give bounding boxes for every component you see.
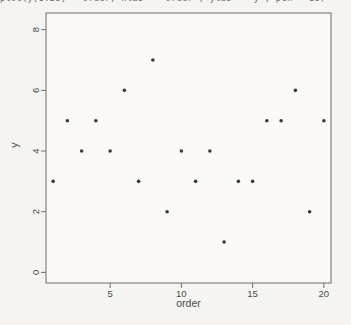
data-point bbox=[294, 89, 298, 93]
y-tick-label: 2 bbox=[30, 209, 41, 214]
data-point bbox=[165, 210, 169, 214]
data-point bbox=[208, 149, 212, 153]
data-point bbox=[322, 119, 326, 123]
data-point bbox=[251, 180, 255, 184]
data-point bbox=[108, 149, 112, 153]
data-point bbox=[222, 240, 226, 244]
scatter-plot: 510152002468 bbox=[0, 0, 351, 325]
data-point bbox=[123, 89, 127, 93]
data-point bbox=[94, 119, 98, 123]
y-tick-label: 8 bbox=[30, 27, 41, 32]
y-tick-label: 0 bbox=[30, 270, 41, 275]
data-point bbox=[237, 180, 241, 184]
data-point bbox=[194, 180, 198, 184]
data-point bbox=[308, 210, 312, 214]
data-point bbox=[151, 58, 155, 62]
chart-canvas: 510152002468 bbox=[0, 0, 351, 325]
data-point bbox=[137, 180, 141, 184]
data-point bbox=[80, 149, 84, 153]
plot-box bbox=[46, 13, 331, 283]
data-point bbox=[51, 180, 55, 184]
y-tick-label: 6 bbox=[30, 88, 41, 93]
data-point bbox=[265, 119, 269, 123]
data-point bbox=[66, 119, 70, 123]
x-axis-title: order bbox=[46, 297, 331, 309]
y-axis-title: y bbox=[8, 133, 20, 157]
data-point bbox=[279, 119, 283, 123]
data-point bbox=[180, 149, 184, 153]
y-tick-label: 4 bbox=[30, 148, 41, 153]
figure-page: plot(y[1:20] ~ order, xlab = "order", yl… bbox=[0, 0, 351, 325]
